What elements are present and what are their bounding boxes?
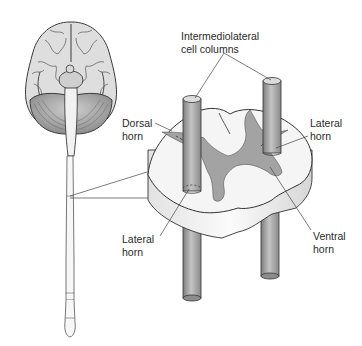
- label-line: horn: [122, 130, 143, 142]
- label-dorsal-horn: Dorsal horn: [122, 117, 152, 142]
- label-ventral-horn: Ventral horn: [313, 230, 346, 255]
- label-lateral-horn-left: Lateral horn: [122, 233, 154, 258]
- label-lateral-horn-right: Lateral horn: [310, 117, 342, 142]
- label-line: Intermediolateral: [181, 30, 259, 42]
- label-line: horn: [313, 243, 334, 255]
- label-line: Dorsal: [122, 117, 152, 129]
- label-intermediolateral-cell-columns: Intermediolateral cell columns: [181, 30, 259, 55]
- label-line: Ventral: [313, 230, 346, 242]
- label-line: Lateral: [122, 233, 154, 245]
- label-line: horn: [310, 130, 331, 142]
- label-line: Lateral: [310, 117, 342, 129]
- brain-illustration: [25, 22, 116, 156]
- label-line: cell columns: [181, 43, 239, 55]
- spinal-cord-diagram: Intermediolateral cell columns Dorsal ho…: [0, 0, 362, 346]
- label-line: horn: [122, 246, 143, 258]
- spinal-cord-cross-section: [148, 108, 312, 238]
